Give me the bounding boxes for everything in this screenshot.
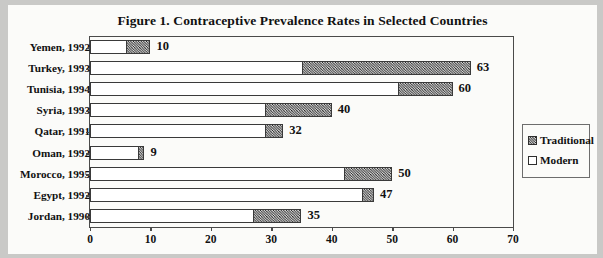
y-axis-tick <box>86 153 90 154</box>
bar-segment-modern <box>90 167 344 181</box>
y-axis-tick <box>86 111 90 112</box>
category-label-qatar: Qatar, 1991 <box>4 121 90 142</box>
bar-segment-modern <box>90 82 398 96</box>
x-axis-tick-label: 70 <box>507 233 519 245</box>
stacked-bar[interactable] <box>90 103 332 117</box>
bar-row: 47 <box>90 185 513 206</box>
stacked-bar[interactable] <box>90 124 283 138</box>
bar-value-label: 9 <box>150 145 156 159</box>
stacked-bar[interactable] <box>90 167 392 181</box>
x-axis-tick-label: 10 <box>145 233 157 245</box>
category-label-jordan: Jordan, 1990 <box>4 206 90 227</box>
x-axis-tick <box>90 227 91 231</box>
chart-figure: Figure 1. Contraceptive Prevalence Rates… <box>8 5 597 254</box>
bar-value-label: 40 <box>338 102 351 116</box>
bar-value-label: 50 <box>398 166 411 180</box>
y-axis-tick <box>86 90 90 91</box>
bar-row: 35 <box>90 206 513 227</box>
x-axis-tick-label: 60 <box>447 233 459 245</box>
x-axis-tick-label: 50 <box>386 233 398 245</box>
legend-item-modern[interactable]: Modern <box>528 150 589 170</box>
x-axis-tick-label: 20 <box>205 233 217 245</box>
x-axis-tick-label: 30 <box>266 233 278 245</box>
bar-value-label: 10 <box>156 39 169 53</box>
x-axis-tick-label: 40 <box>326 233 338 245</box>
bar-row: 40 <box>90 100 513 121</box>
stacked-bar[interactable] <box>90 61 471 75</box>
bar-segment-modern <box>90 103 265 117</box>
x-axis-tick-label: 0 <box>87 233 93 245</box>
bar-row: 60 <box>90 79 513 100</box>
category-label-turkey: Turkey, 1993 <box>4 58 90 79</box>
bar-row: 50 <box>90 164 513 185</box>
bar-value-label: 35 <box>308 208 321 222</box>
stacked-bar[interactable] <box>90 146 144 160</box>
y-axis-tick <box>86 48 90 49</box>
x-axis-tick <box>211 227 212 231</box>
legend-item-traditional[interactable]: Traditional <box>528 130 589 150</box>
bar-segment-traditional <box>138 146 144 160</box>
category-axis: Yemen, 1992Turkey, 1993Tunisia, 1994Syri… <box>1 37 90 227</box>
x-axis-tick <box>453 227 454 231</box>
stacked-bar[interactable] <box>90 82 453 96</box>
bar-segment-traditional <box>362 188 374 202</box>
bar-segment-modern <box>90 209 253 223</box>
legend-label: Traditional <box>540 134 594 146</box>
y-axis-tick <box>86 132 90 133</box>
category-label-egypt: Egypt, 1992 <box>4 185 90 206</box>
page-title: Figure 1. Contraceptive Prevalence Rates… <box>8 13 597 29</box>
category-label-morocco: Morocco, 1995 <box>4 164 90 185</box>
y-axis-tick <box>86 195 90 196</box>
bar-segment-traditional <box>265 103 331 117</box>
bar-value-label: 32 <box>289 123 302 137</box>
bar-value-label: 63 <box>477 60 490 74</box>
bar-segment-modern <box>90 40 126 54</box>
x-axis-tick <box>392 227 393 231</box>
category-label-tunisia: Tunisia, 1994 <box>4 79 90 100</box>
y-axis-tick <box>86 174 90 175</box>
chart-legend: TraditionalModern <box>522 124 590 178</box>
bar-segment-traditional <box>302 61 471 75</box>
x-axis-tick <box>513 227 514 231</box>
bar-row: 63 <box>90 58 513 79</box>
bar-segment-modern <box>90 146 138 160</box>
bar-row: 10 <box>90 37 513 58</box>
bar-segment-modern <box>90 61 302 75</box>
legend-swatch-icon <box>528 136 537 145</box>
bar-segment-modern <box>90 188 362 202</box>
stacked-bar[interactable] <box>90 188 374 202</box>
plot-area: Yemen, 1992Turkey, 1993Tunisia, 1994Syri… <box>89 36 514 228</box>
bar-segment-traditional <box>265 124 283 138</box>
bar-value-label: 47 <box>380 187 393 201</box>
bar-segment-modern <box>90 124 265 138</box>
x-axis-tick <box>271 227 272 231</box>
stacked-bar[interactable] <box>90 209 301 223</box>
scanned-page-background: Figure 1. Contraceptive Prevalence Rates… <box>0 0 603 258</box>
bar-row: 32 <box>90 121 513 142</box>
legend-label: Modern <box>540 154 579 166</box>
y-axis-tick <box>86 216 90 217</box>
category-label-syria: Syria, 1993 <box>4 100 90 121</box>
bar-segment-traditional <box>344 167 392 181</box>
x-axis-tick <box>332 227 333 231</box>
legend-swatch-icon <box>528 156 537 165</box>
bar-segment-traditional <box>398 82 452 96</box>
stacked-bar[interactable] <box>90 40 150 54</box>
bar-segment-traditional <box>126 40 150 54</box>
bar-value-label: 60 <box>459 81 472 95</box>
bar-row: 9 <box>90 143 513 164</box>
x-axis-tick <box>150 227 151 231</box>
bar-segment-traditional <box>253 209 301 223</box>
category-label-oman: Oman, 1992 <box>4 143 90 164</box>
category-label-yemen: Yemen, 1992 <box>4 37 90 58</box>
y-axis-tick <box>86 69 90 70</box>
